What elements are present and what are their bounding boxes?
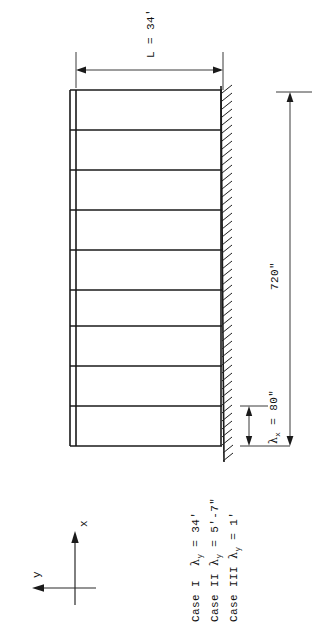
lambda-subscript-y: y bbox=[215, 554, 223, 559]
hatch-stroke bbox=[222, 261, 232, 269]
span-arrowhead-right bbox=[213, 67, 223, 74]
hatch-stroke bbox=[222, 141, 232, 149]
lambda-subscript-y: y bbox=[196, 554, 204, 559]
hatch-stroke bbox=[222, 245, 232, 253]
hatch-stroke bbox=[222, 221, 232, 229]
hatch-stroke bbox=[222, 173, 232, 181]
story-height-label: λx = 80" bbox=[268, 390, 283, 444]
equals-sign: = bbox=[228, 533, 240, 540]
hatch-stroke bbox=[222, 197, 232, 205]
height-arrowhead-top bbox=[287, 92, 294, 102]
hatch-stroke bbox=[222, 133, 232, 141]
equals-sign: = bbox=[190, 540, 202, 547]
legend-row: Case III λy = 1' bbox=[228, 512, 243, 622]
hatch-stroke bbox=[222, 117, 232, 125]
total-height-label: 720" bbox=[270, 262, 281, 290]
lambda-symbol: λ bbox=[189, 559, 202, 566]
building-frame bbox=[70, 90, 222, 446]
hatch-stroke bbox=[222, 253, 232, 261]
hatch-stroke bbox=[222, 269, 232, 277]
hatch-stroke bbox=[222, 277, 232, 285]
lambda-subscript-x: x bbox=[274, 432, 282, 437]
legend-case-label: Case I bbox=[190, 580, 202, 622]
story-arrowhead-top bbox=[246, 406, 252, 416]
span-arrowhead-left bbox=[76, 67, 86, 74]
hatch-stroke bbox=[222, 213, 232, 221]
lambda-subscript-y: y bbox=[234, 547, 242, 552]
legend-row: Case I λy = 34' bbox=[190, 512, 205, 622]
hatch-stroke bbox=[222, 101, 232, 109]
frame-drawing bbox=[0, 0, 329, 631]
equals-sign: = bbox=[268, 418, 280, 425]
hatch-stroke bbox=[222, 229, 232, 237]
legend-case-value: 5'-7" bbox=[209, 498, 221, 533]
hatch-stroke bbox=[222, 157, 232, 165]
fixed-support-hatching bbox=[221, 85, 233, 462]
lambda-symbol: λ bbox=[208, 559, 221, 566]
y-axis-label: y bbox=[32, 571, 43, 578]
legend-case-label: Case II bbox=[209, 573, 221, 622]
legend-case-label: Case III bbox=[228, 566, 240, 622]
legend-case-value: 34' bbox=[190, 512, 202, 533]
hatch-stroke bbox=[222, 125, 232, 133]
hatch-stroke bbox=[222, 189, 232, 197]
hatch-stroke bbox=[222, 109, 232, 117]
figure-page: L = 34' 720" λx = 80" x y Case I λy = 34… bbox=[0, 0, 329, 631]
story-arrowhead-bottom bbox=[246, 436, 252, 446]
hatch-stroke bbox=[222, 205, 232, 213]
story-height-value: 80" bbox=[268, 390, 280, 411]
lambda-symbol: λ bbox=[267, 437, 280, 444]
hatch-stroke bbox=[222, 93, 232, 101]
hatch-stroke bbox=[222, 181, 232, 189]
lambda-symbol: λ bbox=[227, 552, 240, 559]
x-axis-arrowhead bbox=[71, 531, 78, 543]
hatch-stroke bbox=[222, 293, 232, 301]
span-dimension-label: L = 34' bbox=[146, 9, 157, 58]
hatch-stroke bbox=[222, 237, 232, 245]
height-arrowhead-bottom bbox=[287, 436, 294, 446]
legend-case-value: 1' bbox=[228, 512, 240, 526]
legend-row: Case II λy = 5'-7" bbox=[209, 498, 224, 622]
equals-sign: = bbox=[209, 540, 221, 547]
hatch-stroke bbox=[222, 149, 232, 157]
hatch-stroke bbox=[222, 285, 232, 293]
y-axis-arrowhead bbox=[32, 584, 44, 591]
x-axis-label: x bbox=[79, 520, 90, 527]
hatch-stroke bbox=[222, 165, 232, 173]
coordinate-axes-group bbox=[32, 531, 96, 605]
